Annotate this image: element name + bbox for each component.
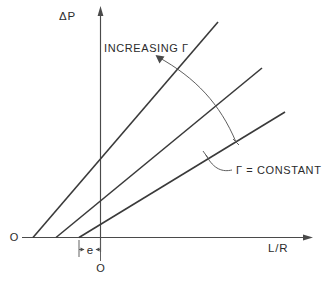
- increasing-gamma-arrowhead: [156, 55, 165, 64]
- origin-label-left: O: [10, 231, 19, 243]
- y-axis-arrowhead: [98, 6, 104, 16]
- figure-container: ΔP L/R O O e INCREASING Γ Γ = CONSTANT: [0, 0, 326, 282]
- offset-arrow-left: [81, 247, 85, 251]
- x-axis-label: L/R: [268, 242, 288, 254]
- offset-label: e: [87, 244, 93, 256]
- data-line-steepest: [33, 22, 218, 238]
- increasing-gamma-label: INCREASING Γ: [104, 42, 189, 54]
- constant-gamma-label: Γ = CONSTANT: [236, 164, 321, 176]
- line-diagram: ΔP L/R O O e INCREASING Γ Γ = CONSTANT: [0, 0, 326, 282]
- y-axis-label: ΔP: [59, 10, 76, 22]
- origin-label-bottom: O: [96, 262, 105, 274]
- x-axis-arrowhead: [303, 235, 313, 241]
- offset-arrow-right: [96, 247, 100, 251]
- data-line-middle: [56, 68, 262, 238]
- constant-label-leader-tick: [203, 151, 208, 158]
